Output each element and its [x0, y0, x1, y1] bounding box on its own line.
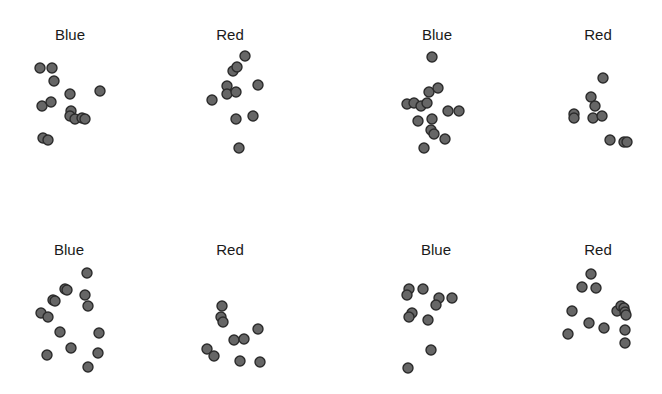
data-point — [597, 111, 607, 121]
data-point — [231, 114, 241, 124]
data-point — [95, 86, 105, 96]
data-point — [253, 80, 263, 90]
panel-4-points — [569, 73, 632, 147]
data-point — [80, 290, 90, 300]
data-point — [404, 312, 414, 322]
data-point — [418, 284, 428, 294]
data-point — [569, 113, 579, 123]
data-point — [426, 345, 436, 355]
data-point — [50, 296, 60, 306]
data-point — [443, 106, 453, 116]
data-point — [621, 310, 631, 320]
data-point — [431, 300, 441, 310]
data-point — [419, 143, 429, 153]
data-point — [239, 334, 249, 344]
data-point — [42, 350, 52, 360]
data-point — [620, 325, 630, 335]
data-point — [598, 73, 608, 83]
scatter-plot-area — [0, 0, 662, 394]
data-point — [591, 283, 601, 293]
data-point — [49, 76, 59, 86]
data-point — [620, 338, 630, 348]
data-point — [577, 282, 587, 292]
data-point — [235, 356, 245, 366]
panel-2-points — [207, 51, 263, 153]
data-point — [47, 63, 57, 73]
data-point — [94, 328, 104, 338]
data-point — [207, 95, 217, 105]
data-point — [599, 323, 609, 333]
data-point — [590, 101, 600, 111]
data-point — [586, 269, 596, 279]
data-point — [605, 135, 615, 145]
data-point — [433, 83, 443, 93]
data-point — [584, 318, 594, 328]
data-point — [55, 327, 65, 337]
data-point — [62, 285, 72, 295]
panel-7-points — [402, 284, 457, 373]
data-point — [80, 114, 90, 124]
data-point — [222, 89, 232, 99]
data-point — [427, 114, 437, 124]
data-point — [83, 301, 93, 311]
data-point — [440, 134, 450, 144]
data-point — [229, 335, 239, 345]
panel-6-points — [202, 301, 265, 367]
data-point — [423, 315, 433, 325]
data-point — [232, 62, 242, 72]
data-point — [43, 135, 53, 145]
data-point — [403, 363, 413, 373]
data-point — [93, 348, 103, 358]
data-point — [43, 312, 53, 322]
data-point — [46, 97, 56, 107]
data-point — [567, 306, 577, 316]
data-point — [217, 301, 227, 311]
data-point — [218, 317, 228, 327]
data-point — [234, 143, 244, 153]
data-point — [563, 329, 573, 339]
data-point — [447, 293, 457, 303]
panel-1-points — [35, 63, 105, 145]
data-point — [429, 129, 439, 139]
data-point — [255, 357, 265, 367]
data-point — [82, 268, 92, 278]
data-point — [454, 106, 464, 116]
data-point — [83, 362, 93, 372]
data-point — [240, 51, 250, 61]
panel-5-points — [36, 268, 104, 372]
data-point — [209, 351, 219, 361]
data-point — [402, 290, 412, 300]
data-point — [66, 343, 76, 353]
data-point — [427, 52, 437, 62]
data-point — [35, 63, 45, 73]
data-point — [248, 111, 258, 121]
data-point — [253, 324, 263, 334]
data-point — [622, 137, 632, 147]
data-point — [422, 98, 432, 108]
data-point — [413, 116, 423, 126]
panel-8-points — [563, 269, 631, 348]
panel-3-points — [402, 52, 464, 153]
data-point — [65, 89, 75, 99]
data-point — [588, 113, 598, 123]
data-point — [231, 87, 241, 97]
